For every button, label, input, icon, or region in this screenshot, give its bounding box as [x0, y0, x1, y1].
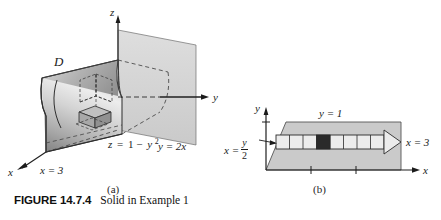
- axis-label-y: y: [212, 91, 218, 103]
- axis-label-z: z: [109, 6, 115, 18]
- axis-label-y-b: y: [254, 102, 260, 114]
- eq-z-lhs: z: [107, 138, 113, 150]
- figure-caption-text: Solid in Example 1: [100, 194, 188, 206]
- label-z-equals-1-minus-y-squared: z = 1 − y 2: [107, 137, 159, 150]
- left-boundary-pointer: [259, 140, 277, 145]
- highlighted-cell: [317, 135, 331, 149]
- figure-container: z y x D z = 1 − y 2 y = 2x x = 3: [0, 0, 441, 220]
- eq-z-one-minus: 1 −: [128, 138, 142, 150]
- axis-label-x: x: [7, 166, 13, 178]
- figure-caption: FIGURE 14.7.4 Solid in Example 1: [14, 194, 189, 206]
- panel-b-2d-region: y x y = 1 x = 3: [241, 80, 441, 190]
- figure-number: FIGURE 14.7.4: [14, 194, 91, 206]
- fraction-denominator: 2: [241, 150, 248, 161]
- fraction-numerator: y: [241, 138, 247, 149]
- region-label-D: D: [53, 54, 64, 69]
- label-x-equals-y-over-2: x = y 2: [224, 138, 248, 161]
- label-x-equals-3-2d: x = 3: [405, 136, 430, 148]
- svg-text:z = 1 −: z = 1 − y 2: [107, 137, 159, 150]
- panel-a-3d-solid: z y x D z = 1 − y 2 y = 2x x = 3: [0, 0, 230, 185]
- label-y-equals-2x: y = 2x: [157, 140, 186, 152]
- label-x-equals-lhs: x =: [224, 144, 239, 156]
- axis-label-x-b: x: [422, 164, 428, 176]
- label-y-equals-1: y = 1: [318, 107, 342, 119]
- fraction-y-over-2: y 2: [241, 138, 248, 161]
- plane-y-equals-2x: [118, 30, 196, 145]
- panel-b-sublabel: (b): [313, 183, 326, 195]
- label-x-equals-3-3d: x = 3: [39, 164, 64, 176]
- y-axis-b: [262, 107, 270, 170]
- eq-z-equals: =: [117, 138, 123, 150]
- eq-z-y: y: [146, 138, 152, 150]
